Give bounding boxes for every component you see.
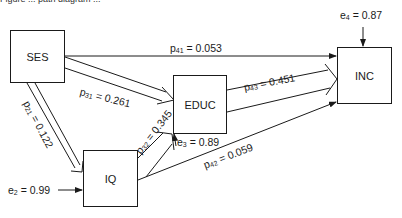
label-e3: e3 = 0.89 [177,137,219,148]
error-e3-arrow [174,134,176,146]
label-p41: p41 = 0.053 [170,43,222,54]
node-iq-label: IQ [105,173,117,185]
node-ses: SES [10,30,65,83]
node-ses-label: SES [26,51,48,63]
path-diagram: Figure ... path diagram ... [0,0,402,218]
node-educ-label: EDUC [184,99,215,111]
node-inc: INC [337,47,392,104]
node-educ: EDUC [173,75,227,134]
label-e2: e2 = 0.99 [8,185,50,196]
label-e4: e4 = 0.87 [340,10,382,21]
node-inc-label: INC [355,70,374,82]
node-iq: IQ [83,150,138,207]
